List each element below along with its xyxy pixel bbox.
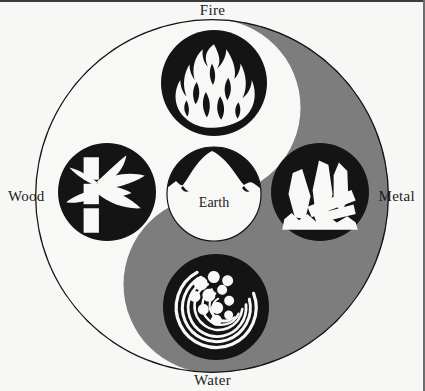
element-label-wood: Wood <box>8 188 45 205</box>
element-label-metal: Metal <box>379 188 416 205</box>
element-disc-wood[interactable] <box>58 143 156 241</box>
earth-center-label: Earth <box>199 195 229 210</box>
element-disc-water[interactable] <box>164 255 268 359</box>
element-disc-metal[interactable] <box>271 143 369 241</box>
figure-page: Earth Fire Wood <box>0 0 425 391</box>
element-label-water: Water <box>0 372 425 389</box>
diagram-canvas: Earth <box>0 0 425 391</box>
element-label-fire: Fire <box>0 2 425 19</box>
element-disc-fire[interactable] <box>161 30 267 136</box>
element-disc-earth[interactable]: Earth <box>167 147 261 241</box>
five-elements-diagram: Earth <box>0 0 425 391</box>
